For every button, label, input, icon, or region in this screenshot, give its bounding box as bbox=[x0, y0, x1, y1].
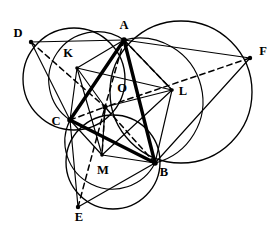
label-e: E bbox=[75, 210, 83, 224]
vertex-dot-k bbox=[75, 66, 79, 70]
vertex-dot-l bbox=[170, 88, 174, 92]
segment-da bbox=[31, 40, 124, 42]
label-m: M bbox=[97, 163, 109, 177]
dashed-eo bbox=[78, 107, 105, 207]
label-c: C bbox=[51, 114, 60, 128]
segment-lb bbox=[155, 90, 172, 163]
segment-af bbox=[124, 40, 250, 58]
vertex-dot-b bbox=[152, 160, 158, 166]
vertex-dot-a bbox=[121, 37, 127, 43]
segment-lm bbox=[102, 90, 172, 155]
vertex-dot-o bbox=[102, 104, 107, 109]
label-f: F bbox=[259, 44, 267, 58]
vertex-dot-f bbox=[248, 56, 252, 60]
geometry-canvas: A B C D E F K L M O bbox=[0, 0, 280, 233]
arc-b-to-a bbox=[124, 38, 203, 163]
label-a: A bbox=[119, 18, 128, 32]
label-l: L bbox=[179, 84, 187, 98]
vertex-dot-c bbox=[67, 117, 73, 123]
label-o: O bbox=[117, 81, 127, 95]
label-k: K bbox=[63, 46, 73, 60]
segment-eb bbox=[78, 163, 155, 207]
label-d: D bbox=[13, 26, 22, 40]
label-b: B bbox=[160, 165, 168, 179]
vertex-dot-d bbox=[29, 40, 33, 44]
vertex-dot-m bbox=[100, 153, 104, 157]
geometry-figure: A B C D E F K L M O bbox=[0, 0, 280, 233]
point-labels-group: A B C D E F K L M O bbox=[13, 18, 267, 224]
vertex-dot-e bbox=[76, 205, 80, 209]
